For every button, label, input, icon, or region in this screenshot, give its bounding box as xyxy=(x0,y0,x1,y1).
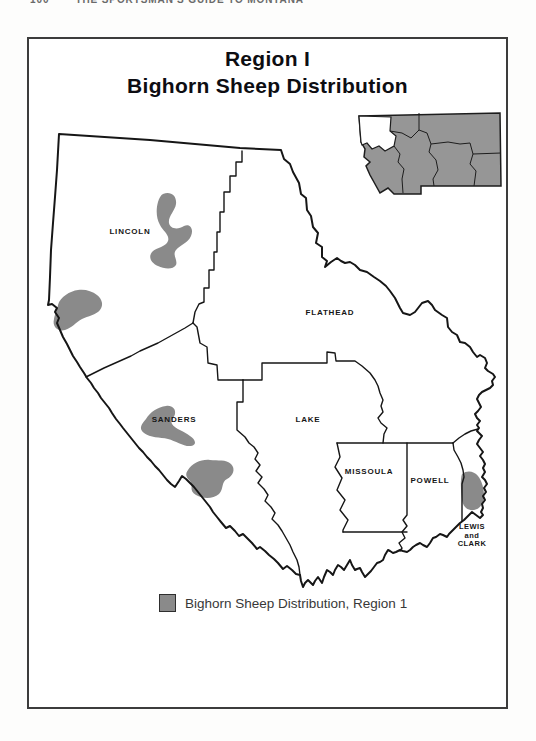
region1-map xyxy=(0,0,536,741)
border-lewisclark-north xyxy=(453,429,478,443)
legend-label: Bighorn Sheep Distribution, Region 1 xyxy=(185,596,407,611)
county-label-lincoln: LINCOLN xyxy=(109,227,150,236)
distribution-area-west-border xyxy=(54,290,103,331)
distribution-area-lincoln xyxy=(150,193,192,268)
county-label-sanders: SANDERS xyxy=(152,415,197,424)
distribution-areas xyxy=(54,193,484,510)
distribution-area-south-sanders xyxy=(186,460,233,498)
county-label-lake: LAKE xyxy=(296,415,321,424)
county-label-missoula: MISSOULA xyxy=(345,467,394,476)
border-lake-flathead xyxy=(243,352,387,443)
county-borders xyxy=(86,151,478,575)
map-legend: Bighorn Sheep Distribution, Region 1 xyxy=(159,594,407,612)
border-sanders-flathead xyxy=(193,323,243,380)
border-powell-lewisclark xyxy=(453,443,464,521)
border-lincoln-sanders xyxy=(86,323,193,377)
montana-inset-map xyxy=(359,113,501,194)
county-label-powell: POWELL xyxy=(410,476,449,485)
legend-swatch xyxy=(159,594,176,612)
county-label-flathead: FLATHEAD xyxy=(306,308,355,317)
distribution-area-sanders xyxy=(141,406,195,446)
scanned-book-page: 100 THE SPORTSMAN'S GUIDE TO MONTANA Reg… xyxy=(0,0,536,741)
county-label-lewis-line3: CLARK xyxy=(458,540,487,549)
border-lincoln-flathead xyxy=(193,151,242,323)
county-label-lewis-and-clark: LEWIS and CLARK xyxy=(458,523,487,549)
border-lake-west-arm xyxy=(237,380,300,575)
border-missoula-powell xyxy=(399,443,407,551)
border-missoula-west xyxy=(335,443,348,532)
